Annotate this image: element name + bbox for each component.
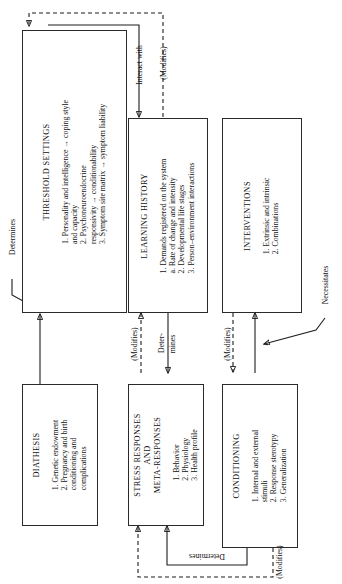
list-item: 3. Person–environment interactions	[187, 158, 196, 273]
title-line-3: META-RESPONSES	[153, 413, 163, 496]
edge-label-modifies-top: (Modifies)	[159, 46, 168, 79]
box-conditioning-list: 1. Internal and external stimuli 2. Resp…	[251, 430, 288, 502]
box-stress-responses-title: STRESS RESPONSES AND META-RESPONSES	[133, 413, 163, 496]
list-item: 2. Psychoneuroendocrine	[79, 100, 88, 244]
list-item: 1. Demands registered on the system	[159, 158, 168, 273]
box-conditioning[interactable]: CONDITIONING 1. Internal and external st…	[222, 384, 298, 548]
box-interventions-list: 1. Extrinsic and intrinsic 2. Combinatio…	[262, 177, 280, 254]
box-learning-history-title: LEARNING HISTORY	[140, 173, 150, 258]
diagram-canvas: THRESHOLD SETTINGS 1. Personality and in…	[0, 0, 342, 584]
box-conditioning-content: CONDITIONING 1. Internal and external st…	[232, 430, 288, 502]
list-item: complications	[79, 420, 88, 491]
list-item: and capacity	[70, 100, 79, 244]
title-line-2: AND	[143, 413, 153, 496]
list-item: 1. Extrinsic and intrinsic	[262, 177, 271, 254]
edge-necessitates-leader	[264, 318, 325, 344]
edge-label-modifies-learning: (Modifies)	[130, 327, 139, 360]
box-interventions-title: INTERVENTIONS	[243, 181, 253, 251]
list-item: 2. Response sterotypy	[270, 430, 279, 502]
edge-label-determines-learning-1: Deter-	[157, 333, 166, 353]
list-item: 3. Symptom site matrix → symptom liabili…	[98, 100, 107, 244]
list-item: 1. Personality and intelligence → coping…	[61, 100, 70, 244]
edge-label-necessitates: Necessitates	[321, 266, 330, 305]
list-item: 2. Physiology	[181, 429, 190, 480]
box-learning-history[interactable]: LEARNING HISTORY 1. Demands registered o…	[128, 118, 208, 313]
edge-label-determines-learning-2: mines	[168, 335, 177, 354]
list-item: responsivity → conditionability	[89, 100, 98, 244]
edge-label-determines-bottom: Determines	[189, 552, 225, 561]
list-item: 3. Generalization	[279, 430, 288, 502]
list-item: 3. Health profile	[190, 429, 199, 480]
box-threshold-settings-list: 1. Personality and intelligence → coping…	[61, 100, 107, 244]
box-stress-responses[interactable]: STRESS RESPONSES AND META-RESPONSES 1. B…	[128, 384, 204, 526]
list-item: 2. Pregnancy and birth	[60, 420, 69, 491]
list-item: a. Rate of change and intensity	[168, 158, 177, 273]
list-item: 2. Developmental life stages	[178, 158, 187, 273]
list-item: 1. Behavior	[172, 429, 181, 480]
box-diathesis-content: DIATHESIS 1. Genetic endowment 2. Pregna…	[32, 420, 88, 491]
list-item: conditioning and	[70, 420, 79, 491]
title-line-1: STRESS RESPONSES	[133, 413, 143, 496]
edge-label-determines-left: Determines	[8, 219, 17, 255]
box-diathesis-list: 1. Genetic endowment 2. Pregnancy and bi…	[51, 420, 88, 491]
edge-label-modifies-bottom: (Modifies)	[275, 545, 284, 578]
box-threshold-settings[interactable]: THRESHOLD SETTINGS 1. Personality and in…	[22, 30, 127, 313]
list-item: stimuli	[260, 430, 269, 502]
box-threshold-settings-content: THRESHOLD SETTINGS 1. Personality and in…	[42, 100, 107, 244]
edge-label-interact-with: Interact with	[135, 45, 144, 85]
box-conditioning-title: CONDITIONING	[232, 433, 242, 498]
box-threshold-settings-title: THRESHOLD SETTINGS	[42, 123, 52, 220]
box-interventions[interactable]: INTERVENTIONS 1. Extrinsic and intrinsic…	[222, 118, 302, 313]
edge-label-modifies-conditioning: (Modifies)	[223, 327, 232, 360]
box-stress-responses-list: 1. Behavior 2. Physiology 3. Health prof…	[172, 429, 200, 480]
list-item: 1. Internal and external	[251, 430, 260, 502]
list-item: 2. Combinations	[272, 177, 281, 254]
box-interventions-content: INTERVENTIONS 1. Extrinsic and intrinsic…	[243, 177, 280, 254]
box-diathesis[interactable]: DIATHESIS 1. Genetic endowment 2. Pregna…	[22, 384, 98, 526]
box-stress-responses-content: STRESS RESPONSES AND META-RESPONSES 1. B…	[133, 413, 200, 496]
list-item: 1. Genetic endowment	[51, 420, 60, 491]
box-learning-history-content: LEARNING HISTORY 1. Demands registered o…	[140, 158, 196, 273]
box-learning-history-list: 1. Demands registered on the system a. R…	[159, 158, 196, 273]
box-diathesis-title: DIATHESIS	[32, 432, 42, 477]
